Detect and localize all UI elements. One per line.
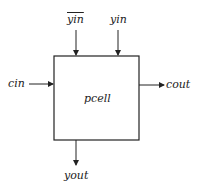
cin-label: cin — [8, 78, 25, 89]
yout-label: yout — [64, 170, 88, 181]
cout-label: cout — [166, 79, 190, 90]
yin-bar-label: yin — [67, 14, 84, 25]
yin-label: yin — [110, 14, 127, 25]
pcell-label: pcell — [84, 93, 111, 104]
